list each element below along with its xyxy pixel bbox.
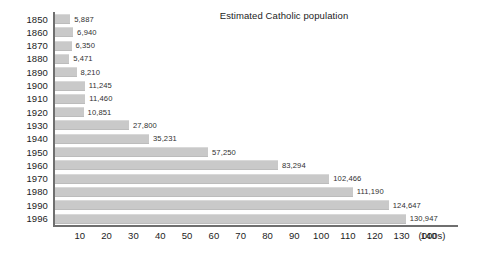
bar-and-value: 10,851 xyxy=(55,107,112,117)
x-tick-label: 140 xyxy=(420,230,436,241)
bar xyxy=(55,160,278,170)
bar-and-value: 6,940 xyxy=(55,27,97,37)
bar-row: 1996130,947 xyxy=(0,212,492,225)
x-tick-label: 100 xyxy=(313,230,329,241)
bar-value-label: 6,940 xyxy=(77,28,97,37)
bar-row-year-label: 1890 xyxy=(0,66,48,79)
bar xyxy=(55,174,330,184)
x-axis-tick-labels: (000s) 102030405060708090100110120130140 xyxy=(0,230,492,250)
bar-row: 194035,231 xyxy=(0,132,492,145)
bar-row-year-label: 1860 xyxy=(0,26,48,39)
x-tick-label: 30 xyxy=(128,230,139,241)
bar-row: 190011,245 xyxy=(0,79,492,92)
bar-row-year-label: 1980 xyxy=(0,185,48,198)
x-tick-label: 60 xyxy=(209,230,220,241)
bar-row-year-label: 1870 xyxy=(0,39,48,52)
bar xyxy=(55,107,84,117)
bar-row: 195057,250 xyxy=(0,146,492,159)
bar xyxy=(55,41,72,51)
bar-row: 191011,460 xyxy=(0,92,492,105)
bar-value-label: 124,647 xyxy=(393,201,421,210)
bar xyxy=(55,147,209,157)
bar-row-year-label: 1930 xyxy=(0,119,48,132)
bar-value-label: 27,800 xyxy=(133,121,157,130)
bar xyxy=(55,54,70,64)
bar-and-value: 11,245 xyxy=(55,81,112,91)
bar-row-year-label: 1880 xyxy=(0,52,48,65)
bar-value-label: 5,471 xyxy=(73,54,93,63)
bar xyxy=(55,94,86,104)
bar xyxy=(55,214,406,224)
bar-row-year-label: 1990 xyxy=(0,199,48,212)
plot-area: 18505,88718606,94018706,35018805,4711890… xyxy=(0,12,492,254)
x-tick-label: 130 xyxy=(394,230,410,241)
bar-and-value: 124,647 xyxy=(55,200,421,210)
bar xyxy=(55,27,74,37)
bar-row: 196083,294 xyxy=(0,159,492,172)
bar-row-year-label: 1970 xyxy=(0,172,48,185)
x-tick-label: 120 xyxy=(367,230,383,241)
bar-value-label: 102,466 xyxy=(333,174,361,183)
bar-and-value: 130,947 xyxy=(55,214,438,224)
bar-row-year-label: 1996 xyxy=(0,212,48,225)
bar-and-value: 8,210 xyxy=(55,67,101,77)
x-tick-label: 10 xyxy=(74,230,85,241)
bar xyxy=(55,200,389,210)
bar xyxy=(55,187,353,197)
bar-and-value: 5,887 xyxy=(55,14,94,24)
bar-row: 1970102,466 xyxy=(0,172,492,185)
bar-row: 18706,350 xyxy=(0,39,492,52)
x-tick-label: 20 xyxy=(101,230,112,241)
bar-and-value: 111,190 xyxy=(55,187,384,197)
bar-and-value: 5,471 xyxy=(55,54,93,64)
bar-row-year-label: 1910 xyxy=(0,92,48,105)
bar-row: 18606,940 xyxy=(0,26,492,39)
bar xyxy=(55,134,149,144)
bar-row: 18908,210 xyxy=(0,66,492,79)
bar xyxy=(55,67,77,77)
bar-row: 1980111,190 xyxy=(0,185,492,198)
bar-and-value: 6,350 xyxy=(55,41,96,51)
bar xyxy=(55,120,130,130)
bar-row-year-label: 1850 xyxy=(0,13,48,26)
bar-value-label: 57,250 xyxy=(212,148,236,157)
bar-value-label: 35,231 xyxy=(153,134,177,143)
bar-value-label: 10,851 xyxy=(88,108,112,117)
bar-row-year-label: 1950 xyxy=(0,146,48,159)
x-tick-label: 90 xyxy=(289,230,300,241)
bar xyxy=(55,14,71,24)
bar-value-label: 8,210 xyxy=(81,68,101,77)
bar xyxy=(55,81,85,91)
bar-row-year-label: 1940 xyxy=(0,132,48,145)
x-tick-label: 110 xyxy=(340,230,355,241)
bar-and-value: 11,460 xyxy=(55,94,113,104)
bar-row: 18805,471 xyxy=(0,52,492,65)
bar-value-label: 11,460 xyxy=(89,94,112,103)
bar-value-label: 6,350 xyxy=(76,41,96,50)
x-tick-label: 50 xyxy=(182,230,193,241)
x-tick-label: 70 xyxy=(235,230,246,241)
bar-value-label: 111,190 xyxy=(357,187,384,196)
bar-row-year-label: 1900 xyxy=(0,79,48,92)
bar-and-value: 102,466 xyxy=(55,174,362,184)
bar-row-year-label: 1960 xyxy=(0,159,48,172)
bar-row: 193027,800 xyxy=(0,119,492,132)
bar-and-value: 83,294 xyxy=(55,160,306,170)
bar-and-value: 57,250 xyxy=(55,147,236,157)
bar-row: 192010,851 xyxy=(0,106,492,119)
bar-and-value: 35,231 xyxy=(55,134,177,144)
x-tick-label: 40 xyxy=(155,230,166,241)
bar-chart: Estimated Catholic population 18505,8871… xyxy=(0,0,492,254)
bar-row: 1990124,647 xyxy=(0,199,492,212)
bar-value-label: 130,947 xyxy=(410,214,438,223)
bar-value-label: 83,294 xyxy=(282,161,306,170)
bar-row: 18505,887 xyxy=(0,13,492,26)
bar-and-value: 27,800 xyxy=(55,120,157,130)
bar-row-year-label: 1920 xyxy=(0,106,48,119)
bar-value-label: 5,887 xyxy=(74,15,94,24)
bar-value-label: 11,245 xyxy=(89,81,112,90)
bar-rows: 18505,88718606,94018706,35018805,4711890… xyxy=(0,12,492,225)
x-tick-label: 80 xyxy=(262,230,273,241)
